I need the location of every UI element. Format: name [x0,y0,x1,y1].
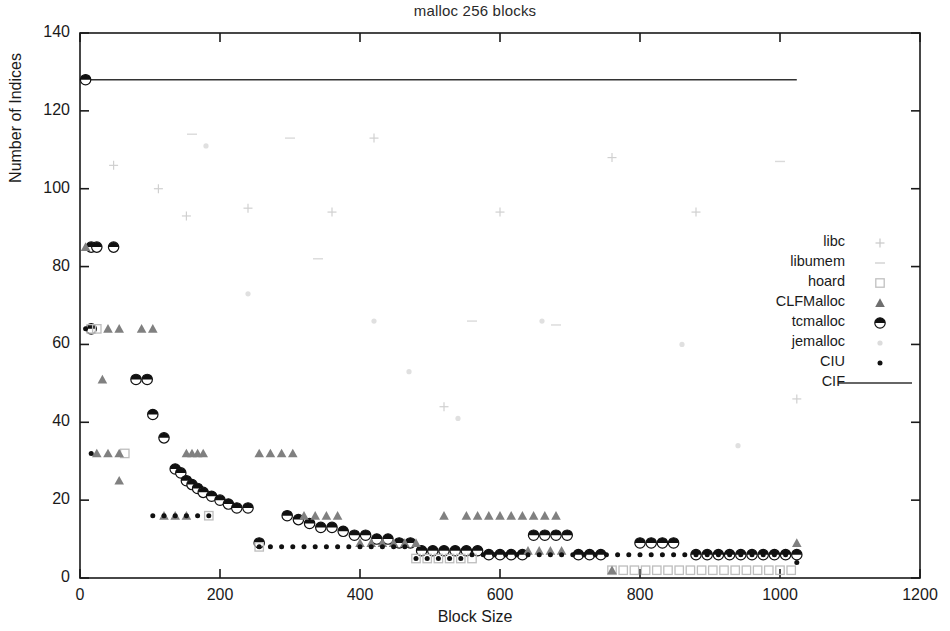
chart-figure: malloc 256 blocks Number of Indices Bloc… [0,0,950,631]
y-tick-120: 120 [22,101,70,119]
series-clfmalloc [81,242,802,574]
y-tick-60: 60 [22,334,70,352]
legend-key-hoard [876,279,884,287]
series-hoard [87,325,795,575]
legend-label-libumem: libumem [725,253,845,269]
legend-label-cif: CIF [725,373,845,389]
legend-key-ciu [878,361,883,366]
x-tick-200: 200 [185,586,255,604]
x-tick-600: 600 [465,586,535,604]
chart-title: malloc 256 blocks [0,2,950,19]
series-cif [80,75,796,85]
data-series-layer [80,75,802,575]
legend-label-jemalloc: jemalloc [725,333,845,349]
y-tick-140: 140 [22,23,70,41]
series-ciu [83,326,799,565]
y-axis-label: Number of Indices [7,200,25,228]
legend-marker-keys [838,239,912,384]
x-axis-label: Block Size [0,608,950,626]
series-jemalloc [203,143,740,448]
x-tick-1000: 1000 [745,586,815,604]
legend-label-clfmalloc: CLFMalloc [725,293,845,309]
y-tick-0: 0 [22,568,70,586]
legend-key-clfmalloc [875,298,885,307]
x-tick-800: 800 [605,586,675,604]
series-libumem [187,134,785,325]
x-tick-1200: 1200 [885,586,950,604]
legend-key-tcmalloc [875,318,885,328]
legend-label-libc: libc [725,233,845,249]
y-tick-100: 100 [22,179,70,197]
y-tick-40: 40 [22,412,70,430]
x-tick-400: 400 [325,586,395,604]
y-tick-80: 80 [22,257,70,275]
legend-label-hoard: hoard [725,273,845,289]
legend-label-ciu: CIU [725,353,845,369]
legend-key-jemalloc [877,340,882,345]
x-tick-0: 0 [45,586,115,604]
series-libc [109,134,801,412]
legend-key-libc [876,239,885,248]
y-tick-20: 20 [22,490,70,508]
legend-label-tcmalloc: tcmalloc [725,313,845,329]
